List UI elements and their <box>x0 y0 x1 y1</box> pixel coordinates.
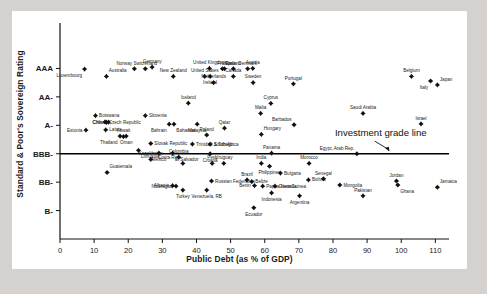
point-label: Portugal <box>285 76 302 81</box>
point-label: Netherlands <box>201 74 226 79</box>
data-point[interactable]: Japan <box>435 77 453 88</box>
data-point[interactable]: Pakistan <box>354 188 372 199</box>
point-label: Panama <box>263 145 281 150</box>
point-marker <box>354 151 359 156</box>
point-marker <box>222 126 227 131</box>
point-label: Oman <box>120 140 133 145</box>
data-point[interactable]: Bahrain <box>151 122 172 133</box>
point-label: Indonesia <box>262 197 282 202</box>
point-label: Luxembourg <box>57 73 83 78</box>
point-label: Benin <box>239 183 251 188</box>
plot-area: 0102030405060708090100110B-BB-BBB-A-AA-A… <box>12 11 467 269</box>
point-label: Poland <box>200 127 215 132</box>
point-marker <box>269 190 274 195</box>
data-point[interactable]: Israel <box>415 116 426 127</box>
point-marker <box>297 193 302 198</box>
point-marker <box>360 193 365 198</box>
point-marker <box>180 188 185 193</box>
point-label: Austria <box>246 60 261 65</box>
point-marker <box>337 182 342 187</box>
data-point[interactable]: Saudi Arabia <box>350 105 376 116</box>
data-point[interactable]: Australia <box>104 68 127 79</box>
point-label: Ecuador <box>245 212 263 217</box>
y-tick-label: A- <box>45 121 54 130</box>
point-marker <box>428 78 433 83</box>
data-point[interactable]: New Zealand <box>160 68 188 79</box>
point-marker <box>171 122 176 127</box>
data-point[interactable]: Ghana <box>395 182 414 193</box>
data-point[interactable]: Uruguay <box>215 155 233 166</box>
data-point[interactable]: Iceland <box>181 95 196 106</box>
data-point[interactable]: Estonia <box>67 128 89 133</box>
point-marker <box>268 101 273 106</box>
data-point[interactable]: India <box>256 155 266 166</box>
point-label: Guatemala <box>109 164 132 169</box>
data-point[interactable]: Oman <box>120 134 133 146</box>
data-point[interactable]: Philippines <box>258 164 281 176</box>
data-point[interactable]: Slovenia <box>143 113 167 118</box>
point-marker <box>395 182 400 187</box>
point-label: Senegal <box>315 171 332 176</box>
data-point[interactable]: Bulgaria <box>278 170 301 175</box>
point-label: Czech Republic <box>109 120 142 125</box>
y-tick-label: BBB- <box>33 150 53 159</box>
point-label: New Zealand <box>160 68 188 73</box>
point-marker <box>143 113 148 118</box>
point-label: Brazil <box>241 172 253 177</box>
data-point[interactable]: Kuwait <box>117 128 132 139</box>
point-label: Costa Rica <box>158 155 181 160</box>
point-marker <box>260 184 265 189</box>
point-label: Australia <box>109 68 127 73</box>
plot-card: 0102030405060708090100110B-BB-BBB-A-AA-A… <box>12 11 467 269</box>
data-point[interactable]: Slovak Republic <box>148 141 188 146</box>
data-point[interactable]: Portugal <box>285 76 302 87</box>
point-marker <box>143 66 148 71</box>
data-point[interactable]: Morocco <box>300 155 318 166</box>
point-label: Estonia <box>67 128 83 133</box>
point-label: Turkey <box>176 194 191 199</box>
point-label: Argentina <box>290 200 310 205</box>
data-point[interactable]: Guatemala <box>104 164 132 175</box>
data-point[interactable]: Jamaica <box>435 179 458 190</box>
y-tick-label: AA- <box>39 93 54 102</box>
data-point[interactable]: Luxembourg <box>57 66 88 77</box>
point-label: Jordan <box>389 173 403 178</box>
data-point[interactable]: Qatar <box>219 120 231 131</box>
data-point[interactable]: Jordan <box>389 173 403 184</box>
point-label: Cyprus <box>264 95 279 100</box>
point-label: South Africa <box>214 142 239 147</box>
point-label: India <box>256 155 266 160</box>
data-point[interactable]: Canada <box>225 68 242 79</box>
point-marker <box>103 127 108 132</box>
point-marker <box>173 184 178 189</box>
point-marker <box>104 170 109 175</box>
data-point[interactable]: Benin <box>239 183 257 188</box>
data-point[interactable]: Italy <box>420 78 433 89</box>
point-marker <box>360 111 365 116</box>
point-marker <box>259 161 264 166</box>
point-marker <box>306 161 311 166</box>
data-point[interactable]: Turkey <box>176 188 191 200</box>
data-point[interactable]: Indonesia <box>262 190 282 202</box>
data-point[interactable]: Malta <box>255 105 267 116</box>
point-marker <box>251 80 256 85</box>
point-label: Chile <box>92 120 103 125</box>
data-point[interactable]: Chile <box>92 120 109 125</box>
data-point[interactable]: Ecuador <box>245 205 263 217</box>
point-label: Egypt, Arab Rep. <box>320 146 355 151</box>
data-point[interactable]: Botswana <box>93 113 120 118</box>
data-point[interactable]: Nicaragua <box>151 184 178 189</box>
point-marker <box>306 177 311 182</box>
data-point[interactable]: Venezuela, RB <box>192 188 222 200</box>
point-marker <box>204 188 209 193</box>
data-point[interactable]: Hungary <box>259 126 282 137</box>
point-label: Bulgaria <box>284 171 301 176</box>
point-label: Botswana <box>99 113 120 118</box>
data-point[interactable]: Egypt, Arab Rep. <box>320 146 360 157</box>
y-axis-title: Standard & Poor's Sovereign Rating <box>15 39 25 209</box>
figure-container: 0102030405060708090100110B-BB-BBB-A-AA-A… <box>0 0 487 294</box>
data-point[interactable]: Sweden <box>245 74 262 85</box>
data-point[interactable]: Belgium <box>403 68 420 79</box>
point-label: Jamaica <box>440 179 458 184</box>
data-point[interactable]: Argentina <box>290 193 310 205</box>
